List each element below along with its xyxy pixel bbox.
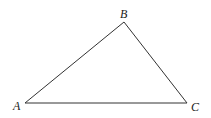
- vertex-label-b: B: [120, 7, 128, 21]
- side-bc: [124, 22, 187, 103]
- triangle-diagram: A B C: [0, 0, 211, 118]
- vertex-label-a: A: [12, 99, 21, 113]
- triangle-svg: A B C: [0, 0, 211, 118]
- side-ab: [25, 22, 124, 103]
- vertex-label-c: C: [191, 100, 200, 114]
